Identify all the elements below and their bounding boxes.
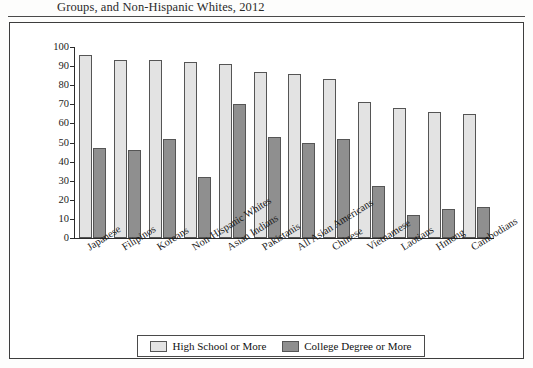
bar-group <box>389 47 424 238</box>
y-tick-label: 60 <box>43 118 69 128</box>
y-tick-label: 80 <box>43 80 69 90</box>
y-tick-mark <box>70 123 74 124</box>
legend-swatch <box>282 341 299 352</box>
y-tick-mark <box>70 181 74 182</box>
legend-label: College Degree or More <box>304 340 411 352</box>
bar <box>358 102 371 238</box>
figure-caption: Groups, and Non-Hispanic Whites, 2012 <box>57 0 477 15</box>
x-axis-labels: JapaneseFilipinosKoreansNon-Hispanic Whi… <box>74 241 494 331</box>
y-tick-mark <box>70 85 74 86</box>
y-tick-label: 30 <box>43 176 69 186</box>
bar-group <box>424 47 459 238</box>
bar-group <box>459 47 494 238</box>
y-tick-mark <box>70 66 74 67</box>
bar <box>79 55 92 238</box>
bar <box>428 112 441 238</box>
caption-divider <box>8 16 525 17</box>
y-tick-mark <box>70 162 74 163</box>
y-tick-label: 90 <box>43 61 69 71</box>
chart-frame: 0102030405060708090100 JapaneseFilipinos… <box>9 22 524 359</box>
bar-group <box>110 47 145 238</box>
bar <box>149 60 162 238</box>
legend-swatch <box>150 341 167 352</box>
bar-group <box>285 47 320 238</box>
bar-group <box>75 47 110 238</box>
y-tick-mark <box>70 219 74 220</box>
y-tick-mark <box>70 143 74 144</box>
bar <box>93 148 106 238</box>
bar <box>463 114 476 238</box>
bar <box>302 143 315 239</box>
bar-group <box>145 47 180 238</box>
bar <box>163 139 176 238</box>
bar <box>128 150 141 238</box>
bar <box>114 60 127 238</box>
y-tick-label: 10 <box>43 214 69 224</box>
bar <box>219 64 232 238</box>
y-tick-label: 0 <box>43 233 69 243</box>
y-tick-mark <box>70 47 74 48</box>
legend-college-degree: College Degree or More <box>282 340 411 352</box>
bar <box>198 177 211 238</box>
y-tick-label: 40 <box>43 157 69 167</box>
bar-group <box>180 47 215 238</box>
legend-high-school: High School or More <box>150 340 266 352</box>
y-tick-label: 50 <box>43 138 69 148</box>
bar <box>323 79 336 238</box>
bar <box>184 62 197 238</box>
bar-groups <box>75 47 494 238</box>
y-tick-mark <box>70 238 74 239</box>
y-tick-mark <box>70 200 74 201</box>
y-tick-label: 100 <box>43 42 69 52</box>
y-tick-label: 70 <box>43 99 69 109</box>
figure-page: Groups, and Non-Hispanic Whites, 2012 01… <box>0 0 533 368</box>
legend-label: High School or More <box>172 340 266 352</box>
chart-legend: High School or MoreCollege Degree or Mor… <box>137 335 425 357</box>
bar <box>288 74 301 238</box>
y-tick-label: 20 <box>43 195 69 205</box>
y-tick-mark <box>70 104 74 105</box>
plot-area: 0102030405060708090100 <box>74 47 494 239</box>
